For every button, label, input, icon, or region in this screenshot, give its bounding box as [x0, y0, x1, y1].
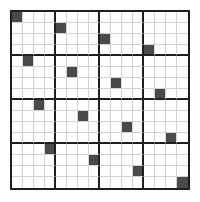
grid-cell[interactable] [177, 133, 188, 144]
grid-cell[interactable] [89, 78, 100, 89]
grid-cell[interactable] [177, 12, 188, 23]
grid-cell[interactable] [34, 12, 45, 23]
grid-cell-filled[interactable] [111, 78, 122, 89]
grid-cell[interactable] [144, 177, 155, 188]
grid-cell-filled[interactable] [89, 155, 100, 166]
grid-cell[interactable] [155, 23, 166, 34]
grid-cell[interactable] [166, 78, 177, 89]
grid-cell[interactable] [45, 78, 56, 89]
grid-cell[interactable] [23, 111, 34, 122]
grid-cell[interactable] [67, 155, 78, 166]
grid-cell[interactable] [133, 155, 144, 166]
grid-cell[interactable] [67, 34, 78, 45]
grid-cell[interactable] [78, 45, 89, 56]
grid-cell[interactable] [12, 56, 23, 67]
grid-cell[interactable] [166, 111, 177, 122]
grid-cell[interactable] [12, 67, 23, 78]
grid-cell[interactable] [100, 166, 111, 177]
grid-cell[interactable] [144, 144, 155, 155]
grid-cell[interactable] [122, 177, 133, 188]
grid-cell[interactable] [45, 133, 56, 144]
grid-cell[interactable] [12, 144, 23, 155]
grid-cell[interactable] [78, 23, 89, 34]
grid-cell[interactable] [12, 111, 23, 122]
grid-cell[interactable] [45, 100, 56, 111]
grid-cell[interactable] [155, 177, 166, 188]
grid-cell[interactable] [12, 177, 23, 188]
grid-cell[interactable] [177, 56, 188, 67]
grid-cell[interactable] [144, 155, 155, 166]
grid-cell[interactable] [45, 155, 56, 166]
grid-cell[interactable] [166, 144, 177, 155]
grid-cell[interactable] [100, 89, 111, 100]
grid-cell[interactable] [111, 12, 122, 23]
grid-cell[interactable] [111, 133, 122, 144]
grid-cell[interactable] [89, 100, 100, 111]
grid-cell[interactable] [166, 166, 177, 177]
grid-cell[interactable] [144, 78, 155, 89]
grid-cell[interactable] [111, 177, 122, 188]
grid-cell[interactable] [23, 78, 34, 89]
grid-cell[interactable] [166, 155, 177, 166]
grid-cell[interactable] [122, 45, 133, 56]
grid-cell[interactable] [89, 23, 100, 34]
grid-cell[interactable] [177, 45, 188, 56]
grid-cell-filled[interactable] [122, 122, 133, 133]
grid-cell[interactable] [144, 166, 155, 177]
grid-cell[interactable] [45, 177, 56, 188]
grid-cell[interactable] [155, 56, 166, 67]
grid-cell[interactable] [155, 67, 166, 78]
grid-cell[interactable] [122, 23, 133, 34]
grid-cell[interactable] [56, 166, 67, 177]
grid-cell[interactable] [133, 67, 144, 78]
grid-cell[interactable] [23, 23, 34, 34]
grid-cell-filled[interactable] [78, 111, 89, 122]
grid-cell-filled[interactable] [133, 166, 144, 177]
grid-cell[interactable] [67, 177, 78, 188]
grid-cell[interactable] [45, 166, 56, 177]
grid-cell[interactable] [45, 122, 56, 133]
grid-cell[interactable] [166, 23, 177, 34]
grid-cell[interactable] [133, 78, 144, 89]
grid-cell[interactable] [111, 23, 122, 34]
grid-cell[interactable] [111, 67, 122, 78]
grid-cell[interactable] [100, 45, 111, 56]
grid-cell[interactable] [144, 67, 155, 78]
grid-cell[interactable] [45, 56, 56, 67]
grid-cell[interactable] [100, 78, 111, 89]
grid-cell[interactable] [100, 56, 111, 67]
grid-cell[interactable] [34, 34, 45, 45]
grid-cell[interactable] [78, 177, 89, 188]
grid-cell[interactable] [177, 122, 188, 133]
grid-cell[interactable] [155, 12, 166, 23]
grid-cell[interactable] [67, 111, 78, 122]
grid-cell[interactable] [34, 67, 45, 78]
grid-cell[interactable] [23, 100, 34, 111]
grid-cell[interactable] [67, 144, 78, 155]
grid-cell[interactable] [155, 144, 166, 155]
grid-cell[interactable] [67, 23, 78, 34]
puzzle-grid[interactable] [10, 10, 190, 190]
grid-cell[interactable] [45, 45, 56, 56]
grid-cell-filled[interactable] [12, 12, 23, 23]
grid-cell[interactable] [111, 144, 122, 155]
grid-cell[interactable] [23, 122, 34, 133]
grid-cell[interactable] [111, 56, 122, 67]
grid-cell[interactable] [56, 111, 67, 122]
grid-cell[interactable] [122, 155, 133, 166]
grid-cell[interactable] [111, 100, 122, 111]
grid-cell[interactable] [34, 155, 45, 166]
grid-cell[interactable] [78, 12, 89, 23]
grid-cell[interactable] [34, 144, 45, 155]
grid-cell[interactable] [89, 56, 100, 67]
grid-cell[interactable] [166, 45, 177, 56]
grid-cell[interactable] [177, 144, 188, 155]
grid-cell[interactable] [56, 155, 67, 166]
grid-cell[interactable] [67, 78, 78, 89]
grid-cell[interactable] [89, 34, 100, 45]
grid-cell[interactable] [111, 34, 122, 45]
grid-cell[interactable] [56, 56, 67, 67]
grid-cell[interactable] [67, 45, 78, 56]
grid-cell[interactable] [144, 122, 155, 133]
grid-cell[interactable] [89, 133, 100, 144]
